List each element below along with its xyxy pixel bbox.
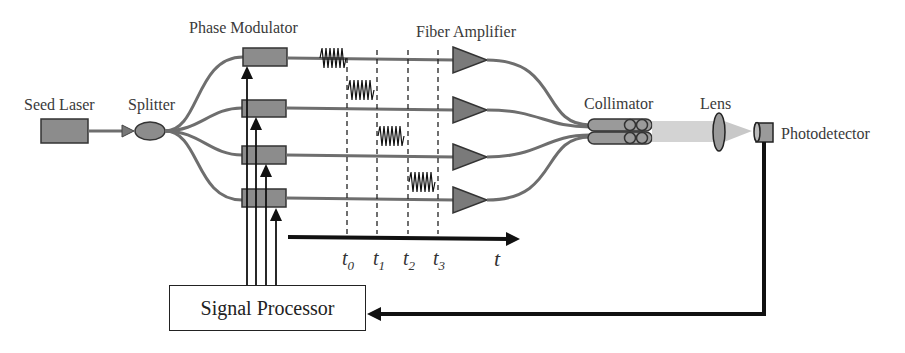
fiber-amplifier-label: Fiber Amplifier [416,24,516,40]
time-tick-t1: t1 [373,248,385,272]
time-tick-t2: t2 [403,248,415,272]
feedback-arrowhead-icon [367,307,381,321]
channel-fibers [286,58,455,200]
time-axis-label: t [494,248,500,270]
time-tick-t3: t3 [433,248,445,272]
photodetector-face [754,123,760,142]
collimator [588,119,652,144]
signal-processor-label: Signal Processor [201,297,335,320]
time-axis-arrowhead-icon [506,232,520,246]
splitter-fibers [165,57,243,200]
time-tick-t0: t0 [342,248,354,272]
splitter-ellipse [135,122,165,140]
focused-beam [724,121,752,142]
tick-sub: 3 [439,258,446,273]
fiber-amplifiers [453,47,487,213]
diagram-canvas [0,0,905,353]
lens [713,113,725,151]
tick-sub: 2 [409,258,416,273]
collimator-label: Collimator [584,96,653,112]
feedback-line [375,142,764,314]
collimated-beam [652,121,717,142]
time-markers [347,50,438,234]
phase-modulator-label: Phase Modulator [189,20,298,36]
seed-laser-box [41,119,88,143]
tick-sub: 1 [379,258,386,273]
splitter-label: Splitter [128,97,175,113]
signal-processor-box: Signal Processor [169,285,366,331]
seed-laser-label: Seed Laser [24,97,95,113]
tick-sub: 0 [348,258,355,273]
time-axis [288,237,510,239]
seed-arrowhead-icon [122,125,134,137]
combining-fibers [487,60,590,200]
lens-label: Lens [700,96,731,112]
photodetector-label: Photodetector [781,126,870,142]
